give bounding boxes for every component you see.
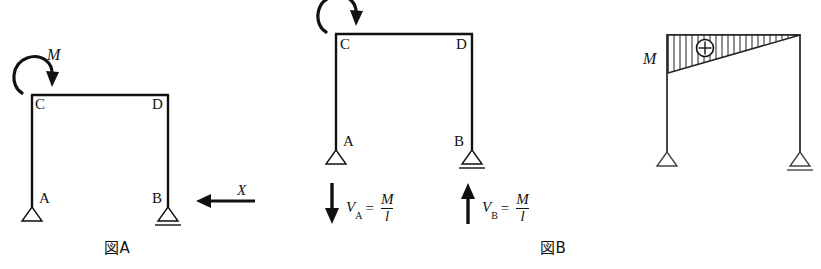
pin-support-a (22, 207, 42, 221)
figure-c: M (590, 0, 821, 269)
reaction-a-equals: = (365, 200, 373, 217)
reaction-b-denominator: l (516, 208, 528, 225)
reaction-b-fraction: M l (512, 192, 533, 225)
figure-a: M C D A B X 図A (0, 0, 290, 269)
moment-label-c: M (643, 50, 656, 68)
reaction-b-equals: = (501, 200, 509, 217)
figure-b: M C D A B VA = M l VB = (290, 0, 590, 269)
reaction-a-fraction: M l (377, 192, 398, 225)
figure-b-drawing: M (290, 0, 590, 269)
reaction-a-denominator: l (381, 208, 393, 225)
moment-label-a: M (46, 46, 62, 63)
reaction-b-symbol: V (482, 199, 491, 215)
joint-label-a-b: A (343, 133, 354, 150)
reaction-b-numerator: M (512, 192, 533, 208)
reaction-a-numerator: M (377, 192, 398, 208)
joint-label-b-a: B (152, 190, 162, 207)
roller-support-b (155, 207, 181, 225)
reaction-b-subscript: B (491, 210, 498, 221)
force-label-x: X (237, 182, 246, 199)
reaction-arrow-a (325, 183, 339, 224)
plus-sign-circle (697, 40, 714, 57)
joint-label-d-b: D (456, 36, 467, 53)
frame-a-structure (31, 95, 169, 207)
reaction-arrow-b (461, 183, 475, 224)
roller-support-b-b (459, 150, 485, 168)
hatch-lines (674, 35, 794, 71)
roller-support-right-c (787, 152, 813, 170)
reaction-formula-a: VA = M l (346, 192, 397, 225)
joint-label-c-b: C (340, 36, 350, 53)
moment-label-b: M (350, 0, 366, 3)
bending-moment-triangle (668, 35, 800, 73)
joint-label-a-a: A (39, 190, 50, 207)
joint-label-b-b: B (454, 133, 464, 150)
pin-support-left-c (657, 152, 677, 166)
moment-arrow-c-b (318, 0, 363, 32)
frame-b-structure (335, 34, 473, 150)
joint-label-c-a: C (35, 96, 45, 113)
caption-figure-b: 図B (540, 236, 566, 257)
caption-figure-a: 図A (104, 236, 130, 257)
reaction-formula-b: VB = M l (482, 192, 533, 225)
figure-c-drawing (590, 0, 821, 269)
figure-a-drawing: M (0, 0, 290, 269)
pin-support-a-b (326, 150, 346, 164)
reaction-a-symbol: V (346, 199, 355, 215)
reaction-a-subscript: A (355, 210, 362, 221)
joint-label-d-a: D (152, 96, 163, 113)
